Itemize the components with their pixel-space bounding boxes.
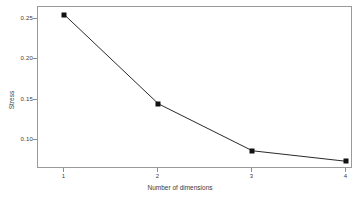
plot-frame	[37, 6, 352, 168]
y-tick-label: 0.25	[21, 15, 33, 21]
x-tick-label: 1	[62, 173, 65, 179]
data-point	[344, 159, 349, 164]
y-axis-tick-labels: 0.250.200.150.10	[0, 0, 33, 200]
x-tick-label: 3	[250, 173, 253, 179]
data-point	[250, 148, 255, 153]
data-point	[62, 12, 67, 17]
x-axis-title: Number of dimensions	[0, 184, 360, 191]
stress-series-line	[38, 7, 353, 169]
y-tick-label: 0.15	[21, 96, 33, 102]
y-tick-label: 0.10	[21, 136, 33, 142]
x-tick-mark	[63, 168, 64, 172]
x-tick-label: 2	[156, 173, 159, 179]
plot-area	[38, 7, 351, 167]
scree-plot-chart: Stress 0.250.200.150.10 1234 Number of d…	[0, 0, 360, 200]
series-polyline	[64, 15, 346, 162]
x-tick-mark	[157, 168, 158, 172]
x-tick-mark	[251, 168, 252, 172]
y-tick-label: 0.20	[21, 55, 33, 61]
x-tick-mark	[345, 168, 346, 172]
x-tick-label: 4	[344, 173, 347, 179]
data-point	[156, 101, 161, 106]
